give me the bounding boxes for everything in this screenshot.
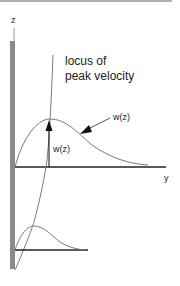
arrow-left-down-icon — [80, 125, 92, 134]
z-axis-label: z — [11, 15, 16, 25]
locus-label-line1: locus of — [65, 54, 107, 68]
velocity-profile-upper — [15, 119, 148, 167]
locus-of-peak-velocity-curve — [15, 55, 53, 270]
wall — [10, 41, 15, 269]
w-outer-label: w(z) — [112, 112, 130, 122]
velocity-profile-lower — [15, 226, 85, 250]
locus-label-line2: peak velocity — [65, 69, 134, 83]
y-axis-label: y — [164, 173, 169, 183]
w-inner-label: w(z) — [52, 144, 70, 154]
wall-jet-diagram: z y locus of peak velocity w(z) w(z) — [0, 0, 180, 286]
arrow-up-icon — [46, 120, 53, 131]
